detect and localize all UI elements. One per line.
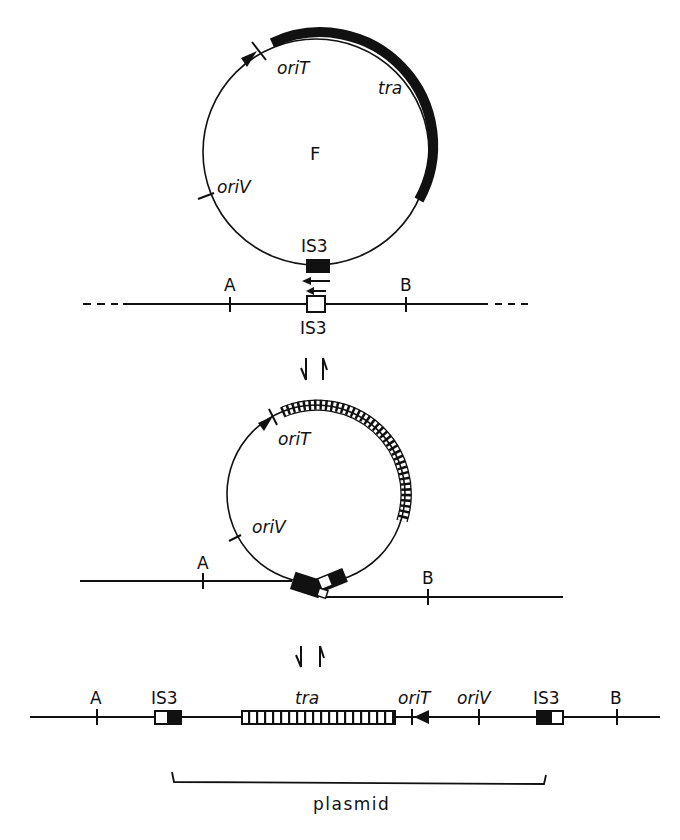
tra-region-hatched-arc [282, 405, 406, 521]
plasmid-bracket-label: plasmid [313, 794, 390, 814]
oriT-label: oriT [277, 58, 311, 78]
is3-junction [290, 568, 348, 598]
tra-label-bottom: tra [295, 688, 319, 708]
is3-chromosome-box [307, 296, 325, 312]
oriT-label-middle: oriT [278, 429, 312, 449]
oriV-label-bottom: oriV [457, 688, 492, 708]
down-arrow-icon [301, 358, 306, 380]
marker-b-label-middle: B [422, 568, 434, 588]
is3-chromosome-label: IS3 [300, 318, 327, 338]
is3-plasmid-label: IS3 [301, 236, 328, 256]
f-label: F [310, 143, 320, 164]
is3-right-box [537, 711, 563, 724]
integration-diagram: oriT tra F oriV IS3 A B IS3 [0, 0, 680, 840]
oriV-label-middle: oriV [252, 517, 287, 537]
tra-hatched-box [242, 711, 395, 724]
marker-a-label-middle: A [197, 553, 209, 573]
is3-left-box [155, 711, 181, 724]
oriT-label-bottom: oriT [398, 688, 432, 708]
oriV-label: oriV [217, 177, 252, 197]
is3-orientation-arrows [302, 277, 330, 295]
is3-plasmid-box [306, 259, 330, 273]
is3-right-label: IS3 [533, 688, 560, 708]
marker-a-label-bottom: A [90, 688, 102, 708]
oriT-arrow-icon-bottom [414, 710, 429, 724]
tra-label: tra [378, 78, 402, 98]
bottom-panel: A IS3 tra oriT oriV IS3 B plasmid [30, 688, 660, 814]
marker-b-label-bottom: B [610, 688, 622, 708]
up-arrow-icon [323, 358, 327, 380]
reversible-arrows-1 [301, 358, 327, 380]
top-panel: oriT tra F oriV IS3 A B IS3 [83, 32, 528, 338]
is3-left-label: IS3 [151, 688, 178, 708]
down-arrow-icon [296, 646, 301, 667]
plasmid-bracket [172, 772, 546, 784]
chromosome-top [83, 296, 528, 312]
up-arrow-icon [320, 646, 324, 667]
oriT-arrow-icon-middle [258, 416, 273, 431]
marker-a-label: A [224, 275, 236, 295]
marker-b-label: B [400, 275, 412, 295]
reversible-arrows-2 [296, 646, 324, 667]
middle-panel: oriT oriV A B [80, 400, 563, 605]
